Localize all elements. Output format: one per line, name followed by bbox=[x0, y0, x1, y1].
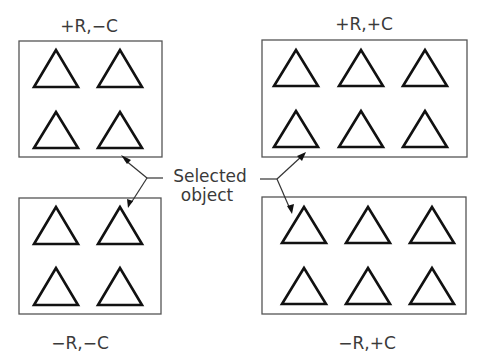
callout-line-2: object bbox=[181, 185, 234, 205]
triangle-icon bbox=[339, 111, 383, 147]
array-quadrant-diagram: +R,−C +R,+C −R,−C −R,+C bbox=[0, 0, 479, 355]
triangle-icon bbox=[34, 268, 78, 305]
triangle-icon bbox=[34, 112, 78, 148]
quadrant-top-left: +R,−C bbox=[19, 16, 162, 157]
triangle-icon bbox=[346, 207, 390, 243]
quadrant-label-top-right: +R,+C bbox=[335, 14, 393, 34]
triangle-icon bbox=[98, 50, 142, 87]
leader-left bbox=[121, 155, 163, 208]
leader-right bbox=[260, 152, 306, 214]
quadrant-label-bottom-right: −R,+C bbox=[338, 333, 396, 353]
quadrant-label-top-left: +R,−C bbox=[60, 16, 118, 36]
triangle-icon bbox=[98, 268, 142, 305]
triangle-icon bbox=[403, 111, 447, 147]
callout-line-1: Selected bbox=[173, 166, 247, 186]
triangle-icon bbox=[410, 207, 454, 243]
triangle-icon bbox=[34, 207, 78, 244]
triangle-icon bbox=[98, 112, 142, 148]
triangle-icon bbox=[282, 207, 326, 243]
quadrant-bottom-right: −R,+C bbox=[262, 197, 466, 353]
triangle-icon bbox=[34, 50, 78, 87]
triangle-icon bbox=[339, 50, 383, 86]
selected-object-callout: Selected object bbox=[121, 152, 306, 214]
triangle-icon bbox=[274, 50, 318, 86]
triangle-icon bbox=[403, 50, 447, 86]
quadrant-bottom-left: −R,−C bbox=[19, 198, 161, 353]
quadrant-label-bottom-left: −R,−C bbox=[51, 333, 109, 353]
triangle-icon bbox=[346, 268, 390, 304]
triangle-icon bbox=[274, 111, 318, 147]
triangle-icon bbox=[410, 268, 454, 304]
triangle-icon bbox=[98, 207, 142, 244]
triangle-icon bbox=[282, 268, 326, 304]
quadrant-top-right: +R,+C bbox=[262, 14, 467, 157]
